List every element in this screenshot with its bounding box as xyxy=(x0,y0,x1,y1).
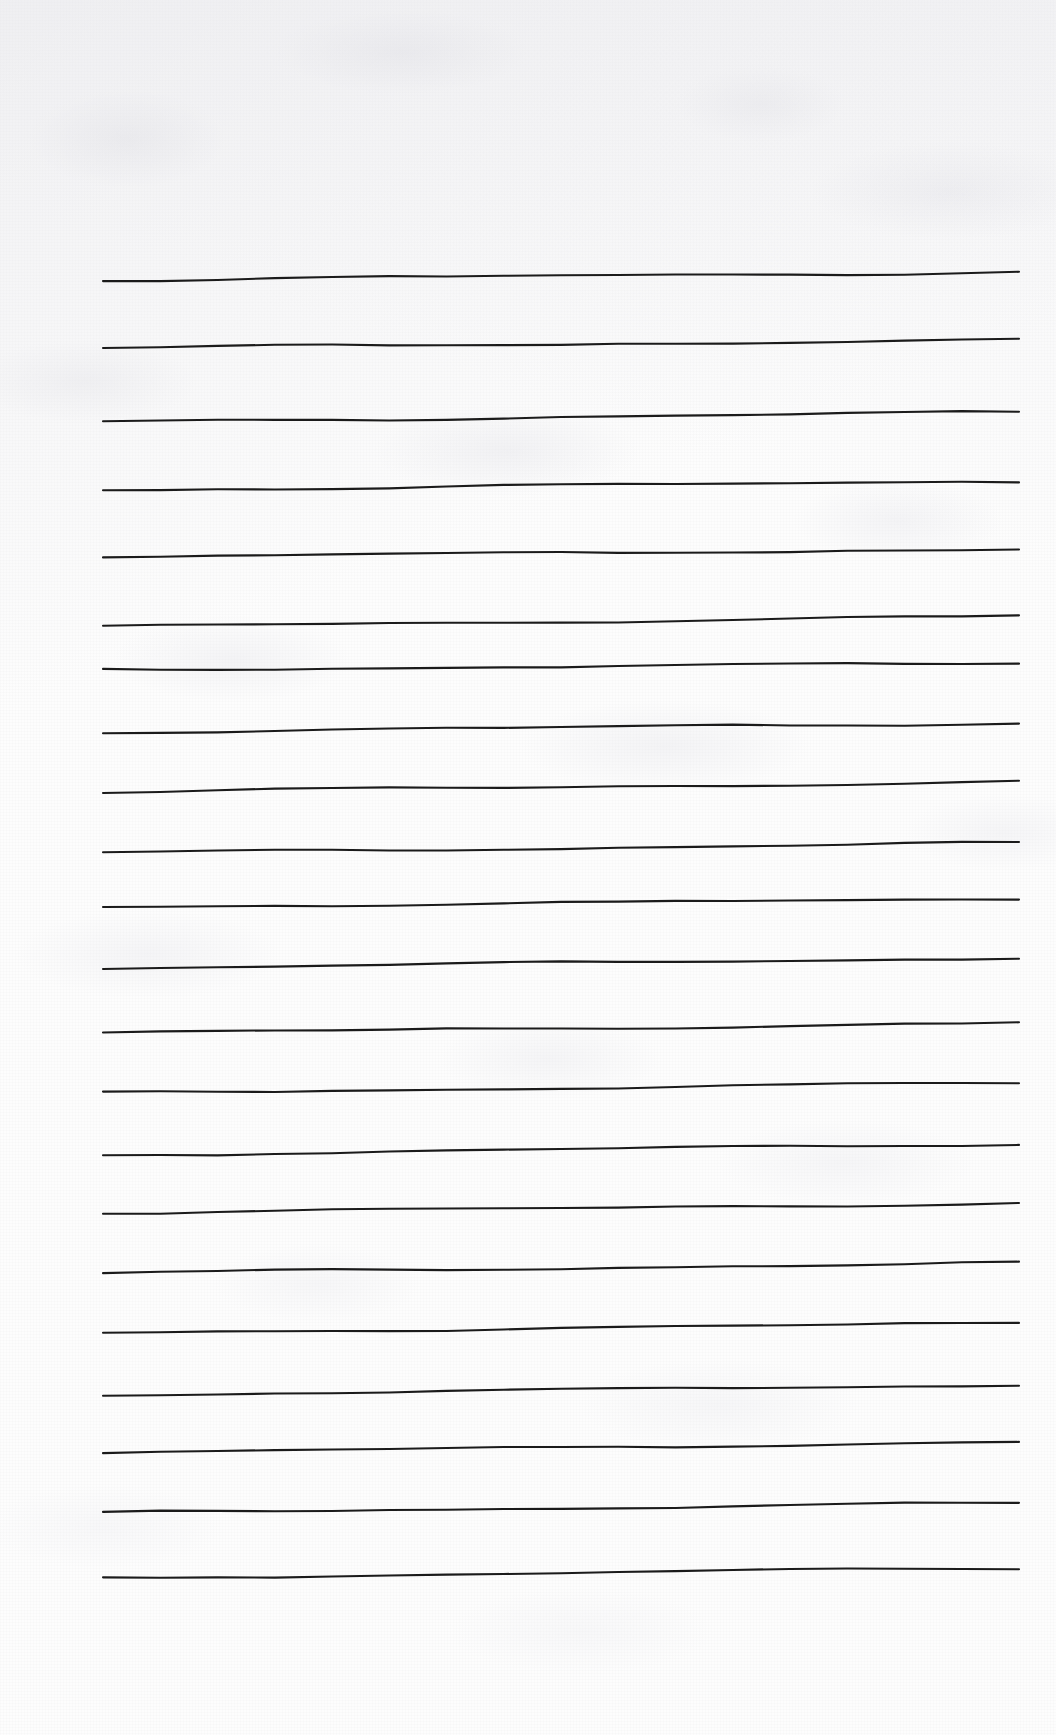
notepaper-page xyxy=(0,0,1056,1735)
written-content-area[interactable] xyxy=(103,260,1019,1600)
